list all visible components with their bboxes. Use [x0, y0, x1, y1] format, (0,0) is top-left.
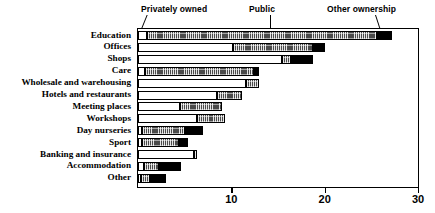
callout-public-leader: [270, 15, 271, 29]
category-label: Shops: [108, 53, 132, 63]
callout-public-label: Public: [249, 4, 275, 14]
bar-segment-other-ownership: [254, 67, 260, 76]
bar-segment-other-ownership: [313, 43, 324, 52]
bar-segment-privately-owned: [138, 102, 180, 111]
category-label: Banking and insurance: [40, 149, 131, 159]
category-label: Accommodation: [67, 160, 131, 170]
bar-segment-privately-owned: [138, 55, 282, 64]
category-label: Hotels and restaurants: [42, 89, 131, 99]
x-axis-tick-label: 30: [412, 193, 424, 205]
callout-privately-owned-label: Privately owned: [141, 4, 207, 14]
category-label: Wholesale and warehousing: [21, 77, 131, 87]
bar-segment-privately-owned: [138, 91, 217, 100]
category-label: Day nurseries: [77, 125, 131, 135]
category-label: Care: [112, 65, 131, 75]
x-axis-tick-label: 10: [225, 193, 237, 205]
bar-segment-privately-owned: [138, 150, 194, 159]
bar-segment-privately-owned: [138, 79, 246, 88]
bar-segment-privately-owned: [138, 114, 197, 123]
bar-segment-other-ownership: [185, 126, 204, 135]
x-axis-tick-label: 20: [319, 193, 331, 205]
bar-segment-other-ownership: [150, 174, 166, 183]
stacked-bar-chart: Privately owned Public Other ownership E…: [0, 0, 435, 213]
category-label: Other: [108, 172, 131, 182]
plot-area: [137, 28, 419, 188]
callout-other-ownership-leader: [375, 15, 381, 29]
bar-segment-public: [217, 91, 241, 100]
category-label: Education: [91, 30, 131, 40]
bar-segment-public: [246, 79, 259, 88]
bar-segment-public: [197, 114, 225, 123]
bar-segment-public: [233, 43, 313, 52]
bar-segment-public: [142, 138, 179, 147]
bar-segment-public: [142, 126, 185, 135]
category-label: Meeting places: [73, 101, 131, 111]
bar-segment-privately-owned: [138, 43, 233, 52]
category-label: Offices: [103, 41, 131, 51]
bar-segment-other-ownership: [377, 31, 392, 40]
bar-segment-other-ownership: [179, 138, 188, 147]
bar-segment-privately-owned: [138, 31, 147, 40]
category-label: Sport: [109, 137, 131, 147]
bar-segment-public: [282, 55, 291, 64]
callout-other-ownership-label: Other ownership: [327, 4, 396, 14]
category-label: Workshops: [87, 113, 131, 123]
bar-segment-public: [141, 174, 150, 183]
bar-segment-public: [145, 67, 254, 76]
bar-segment-other-ownership: [159, 162, 181, 171]
bar-segment-public: [180, 102, 222, 111]
callout-privately-owned-leader: [141, 15, 148, 29]
bar-segment-public: [144, 162, 159, 171]
bar-segment-public: [147, 31, 377, 40]
bar-segment-public: [194, 150, 197, 159]
bar-segment-other-ownership: [291, 55, 313, 64]
